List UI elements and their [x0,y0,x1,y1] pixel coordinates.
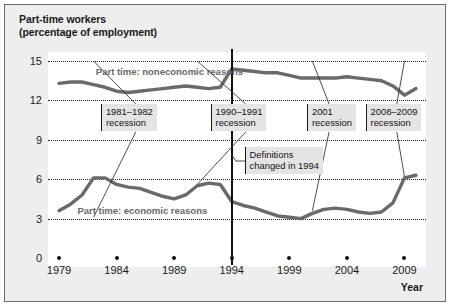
xtick-dot-1989 [172,256,176,260]
xtick-dot-1999 [287,256,291,260]
annotation-line-1: 1990–1991 [216,106,263,118]
plot-area: 03691215 Part time: noneconomic reasons … [48,52,426,267]
annotation-line-1: Definitions [250,149,319,161]
annotation-recession-2001: 2001 recession [307,104,356,132]
xtick-label-1979: 1979 [47,264,71,276]
annotation-line-2: recession [371,117,418,129]
chart-title-line-2: (percentage of employment) [19,26,157,39]
annotation-line-1: 1981–1982 [106,106,153,118]
ytick-label-15: 15 [30,55,42,67]
annotation-recession-1990-1991: 1990–1991 recession [211,104,267,132]
annotation-recession-1981-1982: 1981–1982 recession [101,104,157,132]
annotation-recession-2008-2009: 2008–2009 recession [366,104,422,132]
xtick-label-1999: 1999 [277,264,301,276]
xtick-dot-1984 [115,256,119,260]
chart-figure: Part-time workers (percentage of employm… [0,0,450,306]
annotation-line-1: 2001 [312,106,352,118]
xtick-dot-1994 [230,256,234,260]
ytick-label-9: 9 [36,134,42,146]
annotation-line-2: recession [106,117,153,129]
annotation-line-2: recession [312,117,352,129]
xtick-label-1989: 1989 [162,264,186,276]
xtick-label-1984: 1984 [104,264,128,276]
annotation-line-2: recession [216,117,263,129]
xtick-label-2009: 2009 [392,264,416,276]
chart-frame: Part-time workers (percentage of employm… [4,4,446,302]
annotation-line-2: changed in 1994 [250,160,319,172]
xtick-dot-2004 [345,256,349,260]
series-label-noneconomic: Part time: noneconomic reasons [96,66,243,77]
series-label-economic: Part time: economic reasons [77,205,207,216]
xtick-dot-2009 [402,256,406,260]
ytick-label-6: 6 [36,173,42,185]
definitions-change-divider [231,49,233,265]
xaxis-title: Year [401,281,423,293]
xtick-label-1994: 1994 [219,264,243,276]
chart-title-block: Part-time workers (percentage of employm… [19,13,157,40]
annotation-definitions-changed: Definitions changed in 1994 [245,147,323,175]
ytick-label-0: 0 [36,252,42,264]
ytick-label-3: 3 [36,213,42,225]
ytick-label-12: 12 [30,94,42,106]
xtick-dot-1979 [57,256,61,260]
chart-title-line-1: Part-time workers [19,13,157,26]
xtick-label-2004: 2004 [335,264,359,276]
series-layer [48,52,426,267]
annotation-line-1: 2008–2009 [371,106,418,118]
